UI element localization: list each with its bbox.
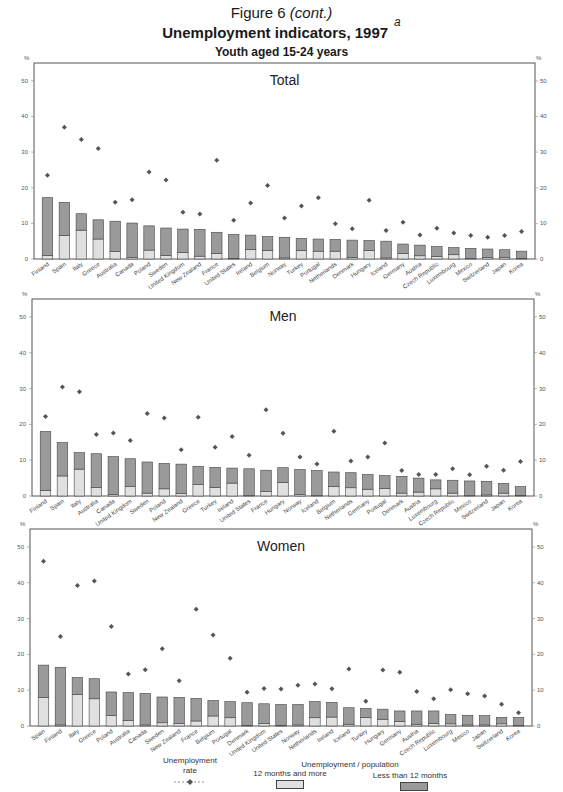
bar-short-term: [106, 692, 117, 716]
y-tick-left: 0: [21, 723, 25, 729]
bar-short-term: [378, 709, 389, 719]
y-tick-left: 50: [17, 544, 24, 550]
bar-long-term: [106, 716, 117, 726]
bar-short-term: [191, 698, 202, 721]
x-tick-label: Greece: [77, 728, 97, 745]
bar-short-term: [123, 693, 134, 721]
bar-long-term: [225, 718, 236, 726]
bar-short-term: [479, 716, 490, 725]
bar-short-term: [445, 715, 456, 724]
x-tick-label: Korea: [505, 728, 522, 742]
bar-long-term: [38, 698, 49, 726]
y-tick-left: 10: [17, 687, 24, 693]
y-tick-right: 50: [537, 544, 544, 550]
bar-long-term: [361, 717, 372, 726]
bar-short-term: [428, 711, 439, 724]
bar-long-term: [394, 721, 405, 726]
rate-marker-icon: [329, 686, 334, 691]
rate-marker-icon: [363, 699, 368, 704]
bar-long-term: [191, 721, 202, 726]
rate-marker-icon: [58, 634, 63, 639]
x-tick-label: Ireland: [316, 728, 334, 743]
bar-short-term: [496, 717, 507, 723]
chart-women: 0010102020303040405050%%WomenSpainFinlan…: [0, 0, 563, 760]
y-tick-right: 40: [537, 580, 544, 586]
bar-short-term: [140, 693, 151, 725]
bar-short-term: [174, 697, 185, 723]
bar-short-term: [38, 665, 49, 698]
panel-title: Women: [257, 538, 305, 554]
rate-marker-icon: [126, 672, 131, 677]
x-tick-label: United States: [251, 728, 284, 754]
x-tick-label: Finland: [43, 728, 63, 744]
rate-marker-icon: [482, 693, 487, 698]
rate-marker-icon: [295, 683, 300, 688]
bar-group: Spain: [30, 559, 49, 742]
bar-long-term: [496, 724, 507, 726]
y-unit-right: %: [533, 521, 539, 527]
bar-long-term: [123, 720, 134, 726]
bar-group: Hungary: [363, 668, 388, 746]
legend-population-label: Unemployment / population: [250, 760, 450, 769]
bar-long-term: [174, 723, 185, 726]
bar-long-term: [378, 719, 389, 726]
y-tick-left: 20: [17, 651, 24, 657]
rate-marker-icon: [346, 667, 351, 672]
rate-marker-icon: [414, 689, 419, 694]
rate-marker-icon: [245, 690, 250, 695]
rate-marker-icon: [380, 668, 385, 673]
bar-short-term: [72, 678, 83, 695]
bar-short-term: [411, 711, 422, 724]
bar-short-term: [310, 702, 321, 718]
x-tick-label: Mexico: [451, 728, 471, 744]
y-tick-right: 10: [537, 687, 544, 693]
rate-marker-icon: [143, 667, 148, 672]
y-tick-right: 30: [537, 616, 544, 622]
bar-short-term: [89, 679, 100, 699]
bar-long-term: [445, 724, 456, 726]
rate-marker-icon: [431, 696, 436, 701]
bar-short-term: [276, 705, 287, 726]
rate-marker-icon: [279, 687, 284, 692]
bar-long-term: [157, 723, 168, 726]
rate-marker-icon: [194, 607, 199, 612]
legend-rate-marker: [172, 778, 208, 786]
rate-marker-icon: [41, 559, 46, 564]
x-tick-label: Iceland: [332, 728, 351, 744]
rate-marker-icon: [211, 633, 216, 638]
rate-marker-icon: [465, 691, 470, 696]
legend-long-term-swatch: [276, 780, 304, 789]
bar-long-term: [89, 699, 100, 726]
bar-long-term: [259, 723, 270, 726]
bar-short-term: [293, 705, 304, 725]
rate-marker-icon: [262, 686, 267, 691]
rate-marker-icon: [516, 710, 521, 715]
y-tick-left: 30: [17, 616, 24, 622]
rate-marker-icon: [75, 583, 80, 588]
bar-short-term: [55, 667, 66, 725]
bar-long-term: [327, 717, 338, 726]
rate-marker-icon: [397, 670, 402, 675]
bar-short-term: [394, 711, 405, 721]
legend-rate-label: Unemployment rate: [150, 756, 230, 776]
y-tick-right: 20: [537, 651, 544, 657]
legend-short-term-swatch: [400, 782, 428, 791]
rate-marker-icon: [228, 656, 233, 661]
legend-short-term-label: Less than 12 months: [340, 771, 480, 780]
rate-marker-icon: [448, 687, 453, 692]
y-tick-left: 40: [17, 580, 24, 586]
x-tick-label: Italy: [68, 728, 80, 739]
bar-long-term: [428, 723, 439, 726]
legend-long-term-label: 12 months and more: [220, 769, 360, 778]
bar-long-term: [208, 716, 219, 726]
bar-short-term: [259, 704, 270, 724]
bar-short-term: [225, 702, 236, 718]
y-unit-left: %: [20, 521, 26, 527]
bar-long-term: [310, 718, 321, 726]
bar-group: Japan: [470, 693, 490, 742]
bar-long-term: [72, 694, 83, 726]
rate-marker-icon: [109, 624, 114, 629]
bar-short-term: [513, 717, 524, 725]
bar-short-term: [327, 702, 338, 717]
rate-marker-icon: [160, 646, 165, 651]
